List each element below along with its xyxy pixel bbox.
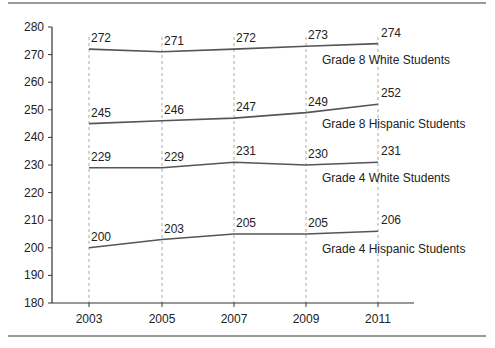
data-label: 200 (91, 230, 111, 244)
data-label: 231 (381, 144, 401, 158)
y-tick-label: 190 (24, 268, 44, 282)
y-tick-label: 180 (24, 296, 44, 310)
series-name-label: Grade 4 White Students (322, 171, 450, 185)
y-tick-label: 200 (24, 241, 44, 255)
y-tick-label: 250 (24, 103, 44, 117)
data-label: 249 (308, 95, 328, 109)
y-tick-label: 220 (24, 186, 44, 200)
data-label: 272 (236, 31, 256, 45)
data-label: 229 (164, 150, 184, 164)
series-name-label: Grade 4 Hispanic Students (322, 242, 465, 256)
data-label: 272 (91, 31, 111, 45)
y-tick-label: 240 (24, 130, 44, 144)
data-label: 229 (91, 150, 111, 164)
data-label: 203 (164, 222, 184, 236)
y-tick-label: 260 (24, 75, 44, 89)
data-labels: 272271272273274Grade 8 White Students245… (91, 26, 465, 257)
data-label: 246 (164, 103, 184, 117)
data-label: 230 (308, 147, 328, 161)
data-label: 231 (236, 144, 256, 158)
data-label: 274 (381, 26, 401, 40)
series-name-label: Grade 8 White Students (322, 53, 450, 67)
x-tick-label: 2011 (365, 312, 391, 326)
y-tick-label: 230 (24, 158, 44, 172)
data-label: 205 (236, 216, 256, 230)
data-label: 205 (308, 216, 328, 230)
y-tick-label: 270 (24, 48, 44, 62)
y-tick-label: 210 (24, 213, 44, 227)
line-chart: 1801902002102202302402502602702802003200… (0, 0, 495, 348)
y-tick-label: 280 (24, 20, 44, 34)
series-name-label: Grade 8 Hispanic Students (322, 117, 465, 131)
data-label: 245 (91, 106, 111, 120)
data-label: 252 (381, 86, 401, 100)
data-label: 271 (164, 34, 184, 48)
x-tick-label: 2005 (149, 312, 176, 326)
data-label: 273 (308, 28, 328, 42)
data-label: 206 (381, 213, 401, 227)
x-tick-label: 2007 (221, 312, 248, 326)
x-tick-label: 2003 (76, 312, 103, 326)
grid-lines (89, 37, 378, 303)
x-tick-label: 2009 (293, 312, 320, 326)
data-label: 247 (236, 100, 256, 114)
